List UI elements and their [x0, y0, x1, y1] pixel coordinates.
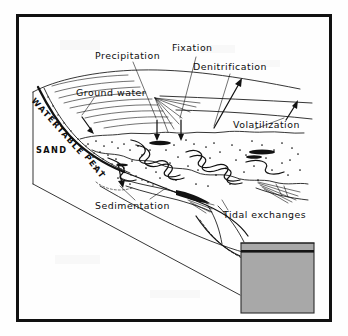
label-sedimentation: Sedimentation	[95, 200, 170, 211]
label-ground-water: Ground water	[76, 87, 146, 98]
label-denitrification: Denitrification	[193, 61, 267, 72]
surface-fan-hatching	[155, 98, 200, 132]
water-surface-line	[241, 250, 314, 253]
denitrification-leader-line	[214, 74, 230, 126]
tidal-creek-network	[108, 140, 284, 184]
marsh-grass-streaks	[258, 182, 300, 203]
label-precipitation: Precipitation	[95, 50, 160, 61]
label-fixation: Fixation	[172, 42, 213, 53]
marsh-surface-outline	[80, 131, 304, 139]
creek-pools	[116, 141, 275, 167]
label-volatilization: Volatilization	[233, 119, 300, 130]
upland-hatching	[52, 75, 172, 128]
tidal-basin-rim	[196, 216, 240, 256]
back-shore-line	[160, 96, 312, 103]
ground-water-leader-line	[82, 98, 94, 115]
label-tidal-exchanges: Tidal exchanges	[222, 209, 306, 220]
water-body-fill	[241, 243, 314, 313]
block-diagram-figure: Precipitation Fixation Denitrification V…	[0, 0, 348, 336]
figure-page: Precipitation Fixation Denitrification V…	[0, 0, 348, 336]
label-sand: SAND	[36, 145, 67, 155]
